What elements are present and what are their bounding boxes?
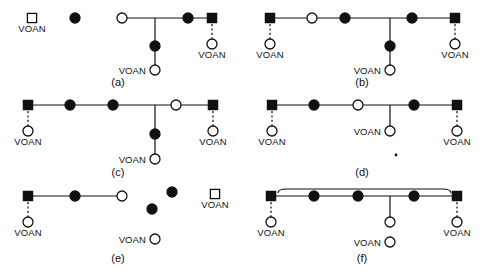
panel-f-node-3-filled-circle-icon xyxy=(353,191,363,201)
panel-b-node-8-open-circle-icon xyxy=(385,65,395,75)
panel-e-node-3-open-circle-icon xyxy=(117,191,127,201)
pedigree-figure: VOANVOANVOAN(a)VOANVOANVOAN(b)VOANVOANVO… xyxy=(0,0,488,280)
panel-a-node-7-open-circle-icon xyxy=(150,65,160,75)
panel-f-node-4-filled-circle-icon xyxy=(409,191,419,201)
panel-c-node-2-filled-circle-icon xyxy=(65,100,75,110)
panel-a: VOANVOANVOAN(a) xyxy=(18,13,225,88)
panel-a-node-5-label: VOAN xyxy=(198,49,225,60)
panel-e-caption: (e) xyxy=(111,252,124,264)
panel-c: VOANVOANVOAN(c) xyxy=(14,100,226,178)
panel-e-node-1-open-circle-icon xyxy=(23,217,33,227)
panel-e-node-1-label: VOAN xyxy=(14,227,41,238)
panel-e-node-7-open-circle-icon xyxy=(150,234,160,244)
panel-b-node-7-filled-circle-icon xyxy=(385,41,395,51)
panel-c-caption: (c) xyxy=(112,166,125,178)
panel-b-caption: (b) xyxy=(355,76,368,88)
panel-a-node-0-label: VOAN xyxy=(18,23,45,34)
panel-d-node-2-filled-circle-icon xyxy=(309,100,319,110)
panel-f-grouping-brace xyxy=(278,189,451,193)
panel-d-stray-dot-0 xyxy=(395,154,398,157)
panel-d-node-4-filled-circle-icon xyxy=(409,100,419,110)
panel-a-node-5-open-circle-icon xyxy=(207,39,217,49)
panel-e-node-7-label: VOAN xyxy=(119,234,146,245)
panel-a-node-6-filled-circle-icon xyxy=(150,41,160,51)
panel-d-node-1-label: VOAN xyxy=(258,136,285,147)
panel-c-node-8-label: VOAN xyxy=(119,154,146,165)
panel-c-node-6-label: VOAN xyxy=(199,136,226,147)
panel-b-node-5-filled-square-icon xyxy=(450,13,459,22)
panel-d-node-3-open-circle-icon xyxy=(353,100,363,110)
panel-c-node-1-label: VOAN xyxy=(14,136,41,147)
panel-f: VOANVOANVOAN(f) xyxy=(257,189,470,264)
panel-c-node-1-open-circle-icon xyxy=(23,126,33,136)
panel-f-node-6-open-circle-icon xyxy=(452,217,462,227)
panel-f-node-8-label: VOAN xyxy=(354,237,381,248)
panel-d-node-5-filled-square-icon xyxy=(452,100,461,109)
panel-e-node-6-open-square-icon xyxy=(210,189,219,198)
panel-a-node-0-open-square-icon xyxy=(27,13,36,22)
panel-a-node-4-filled-square-icon xyxy=(207,13,216,22)
panel-c-node-0-filled-square-icon xyxy=(23,100,32,109)
panel-d-node-6-open-circle-icon xyxy=(452,126,462,136)
panel-f-node-0-filled-square-icon xyxy=(266,191,275,200)
panel-e-node-6-label: VOAN xyxy=(201,199,228,210)
panel-a-node-1-filled-circle-icon xyxy=(70,13,80,23)
panel-e-node-0-filled-square-icon xyxy=(23,191,32,200)
panel-f-node-1-open-circle-icon xyxy=(266,217,276,227)
panel-d-node-1-open-circle-icon xyxy=(267,126,277,136)
panel-c-node-8-open-circle-icon xyxy=(150,154,160,164)
panel-f-node-8-open-circle-icon xyxy=(385,237,395,247)
panel-d-node-0-filled-square-icon xyxy=(267,100,276,109)
panel-a-node-7-label: VOAN xyxy=(119,65,146,76)
panel-a-node-2-open-circle-icon xyxy=(117,13,127,23)
panel-a-caption: (a) xyxy=(111,76,124,88)
panel-f-node-2-filled-circle-icon xyxy=(309,191,319,201)
panel-e-node-2-filled-circle-icon xyxy=(70,191,80,201)
panel-d-caption: (d) xyxy=(355,166,368,178)
panel-c-node-7-filled-circle-icon xyxy=(150,129,160,139)
panel-b-node-4-filled-circle-icon xyxy=(407,13,417,23)
panel-e: VOANVOANVOAN(e) xyxy=(14,187,228,264)
panel-c-node-6-open-circle-icon xyxy=(208,126,218,136)
panel-b-node-8-label: VOAN xyxy=(354,65,381,76)
panel-b-node-6-open-circle-icon xyxy=(450,39,460,49)
panel-e-node-5-filled-circle-icon xyxy=(147,204,157,214)
panel-c-node-4-open-circle-icon xyxy=(171,100,181,110)
panel-b-node-2-open-circle-icon xyxy=(307,13,317,23)
pedigree-svg-canvas: VOANVOANVOAN(a)VOANVOANVOAN(b)VOANVOANVO… xyxy=(0,0,488,280)
panel-b: VOANVOANVOAN(b) xyxy=(256,13,468,88)
panel-f-caption: (f) xyxy=(357,252,367,264)
panel-d: VOANVOANVOAN(d) xyxy=(258,100,470,178)
panel-a-node-3-filled-circle-icon xyxy=(183,13,193,23)
panel-b-node-1-label: VOAN xyxy=(256,49,283,60)
panel-c-node-5-filled-square-icon xyxy=(208,100,217,109)
panel-b-node-6-label: VOAN xyxy=(441,49,468,60)
panel-f-node-1-label: VOAN xyxy=(257,227,284,238)
panel-b-node-3-filled-circle-icon xyxy=(340,13,350,23)
panel-d-node-7-label: VOAN xyxy=(354,126,381,137)
panel-c-node-3-filled-circle-icon xyxy=(108,100,118,110)
panel-b-node-1-open-circle-icon xyxy=(265,39,275,49)
panel-f-node-6-label: VOAN xyxy=(443,227,470,238)
panel-d-node-7-open-circle-icon xyxy=(385,126,395,136)
panel-b-node-0-filled-square-icon xyxy=(265,13,274,22)
panel-d-node-6-label: VOAN xyxy=(443,136,470,147)
panel-e-node-4-filled-circle-icon xyxy=(167,187,177,197)
panel-f-node-7-open-circle-icon xyxy=(385,217,395,227)
panel-f-node-5-filled-square-icon xyxy=(452,191,461,200)
